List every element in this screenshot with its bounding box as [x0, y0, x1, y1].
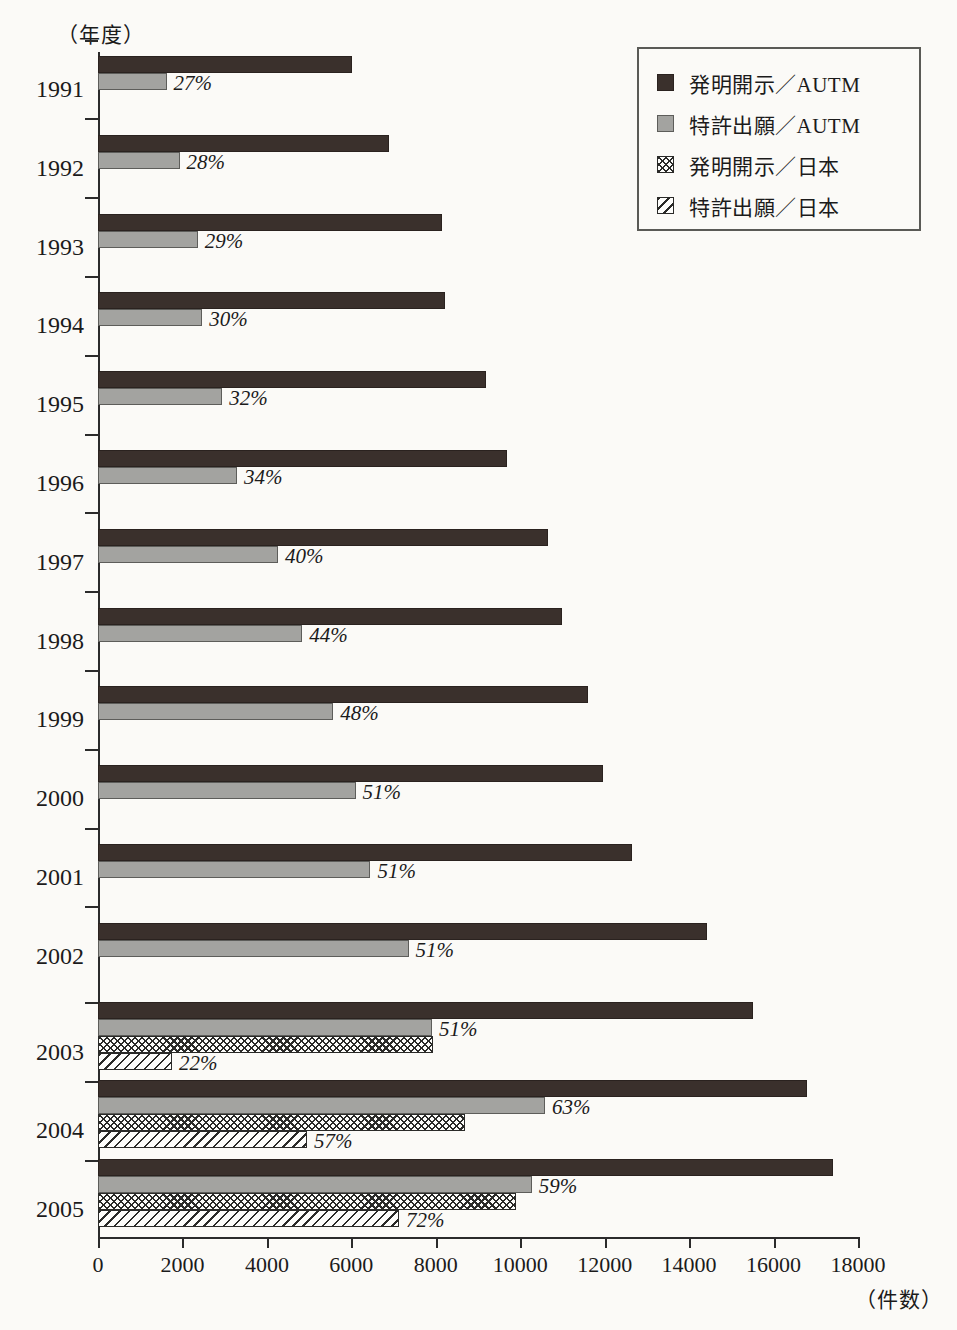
- x-axis-tick: [774, 1237, 776, 1248]
- chart-bar: [98, 56, 352, 73]
- chart-bar: [98, 923, 707, 940]
- year-axis-tick: [85, 1160, 98, 1162]
- chart-bar: [98, 546, 278, 563]
- x-axis-line: [98, 1237, 858, 1239]
- year-axis-label: 2002: [36, 944, 84, 968]
- year-axis-label: 1996: [36, 471, 84, 495]
- year-axis-label: 1999: [36, 707, 84, 731]
- chart-bar: [98, 1159, 833, 1176]
- chart-bar: [98, 1002, 753, 1019]
- year-axis-label: 1992: [36, 156, 84, 180]
- chart-bar: [98, 309, 202, 326]
- year-axis-tick: [85, 276, 98, 278]
- chart-bar: [98, 467, 237, 484]
- year-axis-label: 2000: [36, 786, 84, 810]
- legend-item: 発明開示／AUTM: [657, 62, 919, 103]
- chart-bar: [98, 1036, 433, 1053]
- bar-percent-label: 51%: [363, 784, 402, 801]
- year-axis-label: 2004: [36, 1118, 84, 1142]
- chart-bar: [98, 1019, 432, 1036]
- x-axis-title: （件数）: [855, 1283, 943, 1313]
- bar-chart: （年度） （件数） 199127%199228%199329%199430%19…: [0, 0, 957, 1330]
- year-axis-tick: [85, 906, 98, 908]
- year-axis-tick: [85, 1081, 98, 1083]
- bar-percent-label: 22%: [179, 1055, 218, 1072]
- legend-item: 特許出願／AUTM: [657, 103, 919, 144]
- bar-percent-label: 40%: [285, 548, 324, 565]
- year-axis-label: 2005: [36, 1197, 84, 1221]
- year-axis-label: 1997: [36, 550, 84, 574]
- year-axis-tick: [85, 434, 98, 436]
- chart-bar: [98, 450, 507, 467]
- x-axis-tick: [858, 1237, 860, 1248]
- chart-bar: [98, 1176, 532, 1193]
- x-axis-tick: [98, 1237, 100, 1248]
- chart-bar: [98, 940, 409, 957]
- chart-bar: [98, 135, 389, 152]
- y-axis-title: （年度）: [57, 18, 145, 48]
- year-axis-tick: [85, 828, 98, 830]
- bar-percent-label: 27%: [174, 75, 213, 92]
- chart-bar: [98, 1193, 516, 1210]
- x-axis-tick: [351, 1237, 353, 1248]
- bar-percent-label: 44%: [309, 627, 348, 644]
- chart-bar: [98, 231, 198, 248]
- chart-bar: [98, 1114, 465, 1131]
- year-axis-label: 2003: [36, 1040, 84, 1064]
- x-axis-tick-label: 4000: [245, 1252, 289, 1278]
- bar-percent-label: 72%: [406, 1212, 445, 1229]
- year-axis-tick: [85, 591, 98, 593]
- chart-bar: [98, 1210, 399, 1227]
- solid-grey-swatch-icon: [657, 115, 674, 132]
- bar-percent-label: 63%: [552, 1099, 591, 1116]
- chart-legend: 発明開示／AUTM特許出願／AUTM発明開示／日本特許出願／日本: [637, 47, 921, 231]
- year-axis-tick: [85, 197, 98, 199]
- solid-dark-swatch-icon: [657, 74, 674, 91]
- bar-percent-label: 59%: [539, 1178, 578, 1195]
- legend-item: 特許出願／日本: [657, 185, 919, 226]
- x-axis-tick-label: 10000: [493, 1252, 548, 1278]
- chart-bar: [98, 152, 180, 169]
- year-axis-tick: [85, 749, 98, 751]
- legend-item-label: 特許出願／AUTM: [689, 109, 860, 139]
- year-axis-tick: [85, 670, 98, 672]
- bar-percent-label: 28%: [187, 154, 226, 171]
- legend-item-label: 発明開示／AUTM: [689, 68, 860, 98]
- bar-percent-label: 34%: [244, 469, 283, 486]
- year-axis-label: 1993: [36, 235, 84, 259]
- bar-percent-label: 48%: [340, 705, 379, 722]
- crosshatch-swatch-icon: [657, 156, 674, 173]
- legend-item-label: 発明開示／日本: [689, 150, 840, 180]
- chart-bar: [98, 1080, 807, 1097]
- year-axis-tick: [85, 1002, 98, 1004]
- x-axis-tick: [182, 1237, 184, 1248]
- bar-percent-label: 32%: [229, 390, 268, 407]
- x-axis-tick-label: 8000: [414, 1252, 458, 1278]
- x-axis-tick-label: 0: [93, 1252, 104, 1278]
- chart-bar: [98, 861, 370, 878]
- year-axis-label: 1994: [36, 313, 84, 337]
- chart-bar: [98, 703, 333, 720]
- year-axis-tick: [85, 512, 98, 514]
- chart-bar: [98, 625, 302, 642]
- chart-bar: [98, 388, 222, 405]
- x-axis-tick: [267, 1237, 269, 1248]
- x-axis-tick: [520, 1237, 522, 1248]
- year-axis-tick: [85, 40, 98, 42]
- x-axis-tick-label: 14000: [662, 1252, 717, 1278]
- year-axis-label: 1995: [36, 392, 84, 416]
- x-axis-tick-label: 6000: [329, 1252, 373, 1278]
- chart-bar: [98, 214, 442, 231]
- bar-percent-label: 51%: [439, 1021, 478, 1038]
- legend-item-label: 特許出願／日本: [689, 191, 840, 221]
- x-axis-tick: [436, 1237, 438, 1248]
- bar-percent-label: 51%: [377, 863, 416, 880]
- x-axis-tick-label: 2000: [160, 1252, 204, 1278]
- x-axis-tick-label: 12000: [577, 1252, 632, 1278]
- chart-bar: [98, 73, 167, 90]
- year-axis-label: 1991: [36, 77, 84, 101]
- x-axis-tick: [689, 1237, 691, 1248]
- chart-bar: [98, 292, 445, 309]
- year-axis-tick: [85, 355, 98, 357]
- chart-bar: [98, 371, 486, 388]
